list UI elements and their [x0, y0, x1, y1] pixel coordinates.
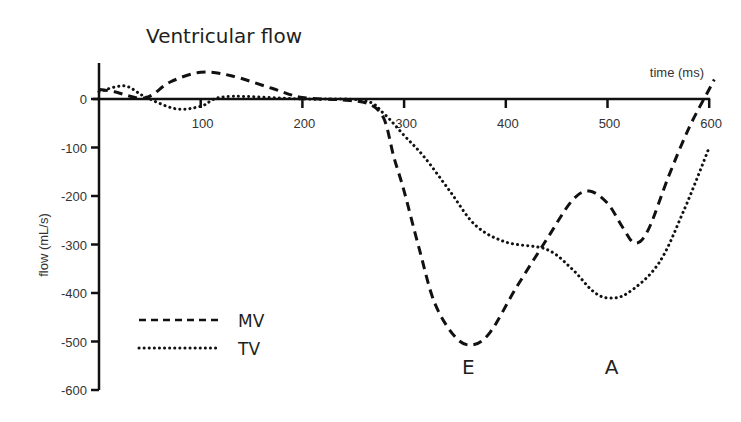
x-tick-label: 100 — [192, 116, 214, 131]
x-tick-label: 300 — [395, 116, 417, 131]
y-tick-label: -100 — [61, 141, 87, 156]
x-tick-label: 500 — [599, 116, 621, 131]
legend-label-mv: MV — [238, 311, 265, 331]
y-tick-label: -300 — [61, 238, 87, 253]
y-tick-label: 0 — [80, 92, 87, 107]
x-axis-label: time (ms) — [650, 65, 704, 80]
x-tick-label: 600 — [700, 116, 722, 131]
annotations: EA — [462, 355, 619, 379]
y-axis-label: flow (mL/s) — [36, 213, 51, 277]
annotation-a: A — [605, 355, 619, 379]
ventricular-flow-chart: Ventricular flow 0-100-200-300-400-500-6… — [0, 0, 741, 422]
y-tick-label: -500 — [61, 335, 87, 350]
annotation-e: E — [462, 355, 475, 379]
x-tick-label: 200 — [294, 116, 316, 131]
series-lines — [99, 72, 714, 345]
series-line-mv — [99, 72, 714, 345]
x-tick-label: 400 — [497, 116, 519, 131]
legend: MVTV — [139, 311, 265, 359]
y-tick-label: -200 — [61, 189, 87, 204]
y-tick-label: -400 — [61, 286, 87, 301]
chart-title: Ventricular flow — [146, 24, 302, 48]
y-tick-label: -600 — [61, 383, 87, 398]
legend-label-tv: TV — [237, 339, 260, 359]
